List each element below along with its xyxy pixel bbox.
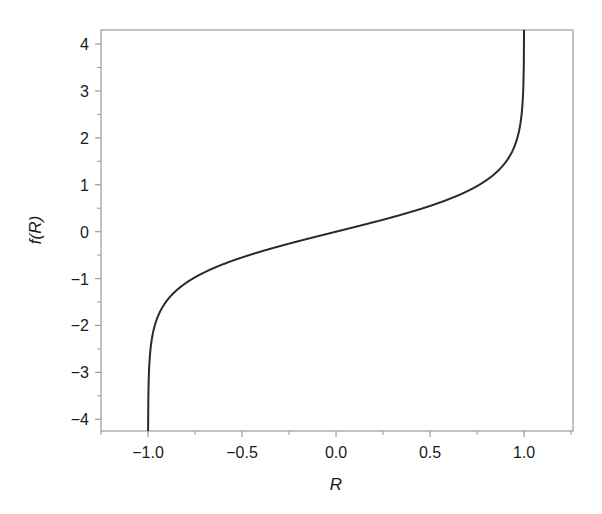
x-tick-label: −0.5: [226, 444, 258, 461]
y-tick-label: 0: [80, 224, 89, 241]
x-tick-label: 0.0: [325, 444, 347, 461]
y-tick-label: −2: [71, 317, 89, 334]
y-tick-label: 1: [80, 177, 89, 194]
y-tick-label: −1: [71, 271, 89, 288]
y-axis-label: f(R): [26, 216, 45, 244]
y-tick-label: −4: [71, 411, 89, 428]
chart: −1.0−0.50.00.51.0 −4−3−2−101234 R f(R): [0, 0, 602, 514]
y-tick-label: 2: [80, 130, 89, 147]
x-tick-label: −1.0: [132, 444, 164, 461]
x-axis-label: R: [330, 475, 342, 494]
y-tick-label: 3: [80, 83, 89, 100]
y-tick-label: 4: [80, 36, 89, 53]
x-tick-label: 0.5: [419, 444, 441, 461]
plot-background: [0, 0, 602, 514]
x-tick-label: 1.0: [513, 444, 535, 461]
y-tick-label: −3: [71, 364, 89, 381]
